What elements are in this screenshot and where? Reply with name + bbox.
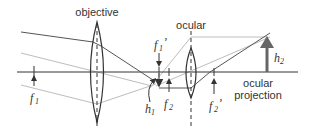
f2-label: f 2 <box>164 97 173 112</box>
objective-lens <box>91 22 104 126</box>
ocular-projection-label-1: ocular <box>243 77 273 89</box>
h2-arrow <box>260 36 274 72</box>
f1-prime-label: f 1 ’ <box>154 35 167 53</box>
svg-text:’: ’ <box>218 96 222 110</box>
svg-text:1: 1 <box>151 108 155 117</box>
f1-label: f 1 <box>30 91 39 106</box>
h2-label: h 2 <box>274 51 284 66</box>
h1-label: h 1 <box>145 102 155 117</box>
svg-text:2: 2 <box>280 57 284 66</box>
f2-prime-label: f 2 ’ <box>209 96 222 114</box>
microscope-ray-diagram: objective ocular ocular projection f 1 f… <box>0 0 309 135</box>
ocular-lens <box>186 31 196 128</box>
ocular-projection-label-2: projection <box>234 89 282 101</box>
ocular-label: ocular <box>176 19 206 31</box>
svg-text:1: 1 <box>35 97 39 106</box>
light-rays <box>21 37 270 104</box>
dark-rays <box>21 32 270 88</box>
svg-text:’: ’ <box>163 35 167 49</box>
svg-text:2: 2 <box>169 103 173 112</box>
objective-label: objective <box>75 6 118 18</box>
